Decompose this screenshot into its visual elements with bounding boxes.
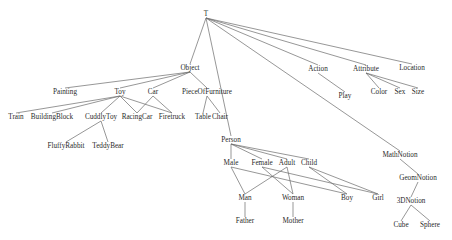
- edge-child-boy: [309, 167, 347, 194]
- edge-person-adult: [231, 144, 287, 159]
- node-cube: Cube: [393, 221, 408, 229]
- node-cuddlytoy: CuddlyToy: [85, 113, 118, 121]
- node-painting: Painting: [53, 88, 77, 96]
- nodes-layer: TObjectActionAttributeLocationPlayColorS…: [8, 10, 440, 229]
- edge-cuddlytoy-teddybear: [101, 121, 108, 142]
- node-mathnotion: MathNotion: [382, 151, 418, 159]
- node-color: Color: [371, 88, 388, 96]
- node-man: Man: [238, 194, 252, 202]
- node-car: Car: [148, 88, 159, 96]
- node-train: Train: [8, 113, 24, 121]
- node-table: Table: [195, 113, 211, 121]
- edge-pieceoffurniture-chair: [207, 96, 220, 113]
- node-mother: Mother: [282, 217, 304, 225]
- edge-attribute-sex: [366, 73, 400, 88]
- node-play: Play: [339, 92, 352, 100]
- node-t: T: [204, 10, 209, 18]
- node-pieceoffurniture: PieceOfFurniture: [182, 88, 232, 96]
- node-firetruck: Firetruck: [159, 113, 186, 121]
- edge-object-toy: [120, 72, 190, 88]
- edge-3dnotion-cube: [401, 205, 411, 221]
- node-geomnotion: GeomNotion: [399, 174, 437, 182]
- node-location: Location: [399, 64, 425, 72]
- node-girl: Girl: [372, 194, 384, 202]
- edge-t-attribute: [206, 18, 366, 65]
- edge-adult-man: [245, 167, 287, 194]
- edge-attribute-size: [366, 73, 418, 88]
- edge-person-female: [231, 144, 262, 159]
- node-boy: Boy: [341, 194, 353, 202]
- concept-hierarchy-diagram: TObjectActionAttributeLocationPlayColorS…: [0, 0, 452, 240]
- edge-geomnotion-3dnotion: [411, 182, 418, 197]
- node-fluffyrabbit: FluffyRabbit: [47, 142, 84, 150]
- node-sex: Sex: [395, 88, 406, 96]
- node-adult: Adult: [279, 159, 295, 167]
- edge-3dnotion-sphere: [411, 205, 430, 221]
- node-object: Object: [180, 64, 199, 72]
- node-3dnotion: 3DNotion: [397, 197, 426, 205]
- edge-mathnotion-geomnotion: [400, 159, 418, 174]
- node-racingcar: RacingCar: [122, 113, 153, 121]
- node-sphere: Sphere: [420, 221, 440, 229]
- edge-t-mathnotion: [206, 18, 400, 151]
- edge-t-location: [206, 18, 412, 64]
- edge-male-boy: [231, 167, 347, 194]
- node-buildingblock: BuildingBlock: [31, 113, 74, 121]
- node-teddybear: TeddyBear: [92, 142, 124, 150]
- edge-car-firetruck: [153, 96, 172, 113]
- node-person: Person: [221, 136, 241, 144]
- edge-male-man: [231, 167, 245, 194]
- node-action: Action: [308, 65, 328, 73]
- node-toy: Toy: [114, 88, 125, 96]
- edge-toy-firetruck: [120, 96, 172, 113]
- edge-object-pieceoffurniture: [190, 72, 207, 88]
- edge-t-action: [206, 18, 318, 65]
- edge-pieceoffurniture-table: [203, 96, 207, 113]
- node-attribute: Attribute: [353, 65, 379, 73]
- edge-cuddlytoy-fluffyrabbit: [66, 121, 101, 142]
- edge-car-racingcar: [137, 96, 153, 113]
- edge-toy-buildingblock: [52, 96, 120, 113]
- edge-toy-train: [16, 96, 120, 113]
- node-child: Child: [301, 159, 317, 167]
- edge-person-child: [231, 144, 309, 159]
- edge-action-play: [318, 73, 345, 92]
- node-female: Female: [251, 159, 272, 167]
- node-size: Size: [412, 88, 424, 96]
- node-father: Father: [236, 217, 255, 225]
- edge-t-object: [190, 18, 206, 64]
- node-male: Male: [224, 159, 239, 167]
- node-chair: Chair: [212, 113, 229, 121]
- edge-attribute-color: [366, 73, 379, 88]
- node-woman: Woman: [282, 194, 305, 202]
